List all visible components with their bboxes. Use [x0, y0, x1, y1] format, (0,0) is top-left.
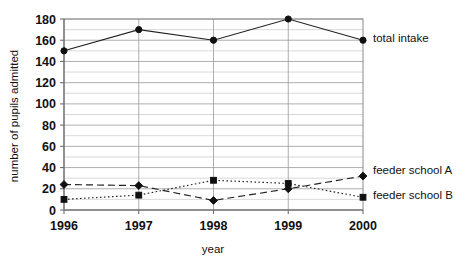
- data-point-marker: [359, 172, 367, 180]
- data-point-marker: [360, 37, 366, 43]
- data-point-marker: [135, 182, 143, 190]
- data-point-marker: [210, 197, 218, 205]
- x-axis-tick-label: 2000: [349, 219, 377, 233]
- x-axis-tick-label: 1996: [50, 219, 78, 233]
- data-point-marker: [285, 181, 291, 187]
- series-label-total-intake: total intake: [373, 32, 429, 44]
- data-point-marker: [136, 27, 142, 33]
- x-axis-tick-label: 1997: [125, 219, 153, 233]
- chart-canvas: 020406080100120140160180 199619971998199…: [0, 0, 470, 268]
- y-axis-tick-label: 100: [35, 97, 56, 111]
- series-label-feeder-school-b: feeder school B: [373, 189, 453, 201]
- y-axis-tick-label: 40: [42, 161, 56, 175]
- y-axis-tick-label: 160: [35, 34, 56, 48]
- data-point-marker: [61, 48, 67, 54]
- x-axis-tick-labels: 19961997199819992000: [50, 219, 377, 233]
- y-axis-title: number of pupils admitted: [8, 50, 20, 182]
- x-axis-title: year: [202, 243, 225, 255]
- data-point-marker: [61, 196, 67, 202]
- data-point-marker: [60, 181, 68, 189]
- y-axis-tick-label: 120: [35, 76, 56, 90]
- line-chart: 020406080100120140160180 199619971998199…: [0, 0, 470, 268]
- x-axis-tick-label: 1999: [274, 219, 302, 233]
- data-point-marker: [211, 177, 217, 183]
- series-labels: total intakefeeder school Afeeder school…: [373, 32, 453, 201]
- y-axis-tick-label: 140: [35, 55, 56, 69]
- data-point-marker: [210, 37, 216, 43]
- data-point-marker: [360, 194, 366, 200]
- y-axis-tick-label: 0: [49, 204, 56, 218]
- axes: [60, 19, 363, 214]
- y-axis-tick-label: 80: [42, 119, 56, 133]
- series-label-feeder-school-a: feeder school A: [373, 164, 453, 176]
- y-axis-tick-label: 60: [42, 140, 56, 154]
- y-axis-tick-label: 20: [42, 182, 56, 196]
- data-point-marker: [285, 16, 291, 22]
- y-axis-tick-label: 180: [35, 13, 56, 27]
- x-axis-tick-label: 1998: [200, 219, 228, 233]
- y-axis-tick-labels: 020406080100120140160180: [35, 13, 56, 218]
- data-point-marker: [136, 192, 142, 198]
